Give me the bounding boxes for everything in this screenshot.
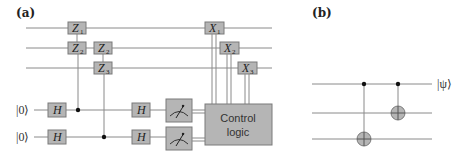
svg-text:Z: Z — [98, 61, 105, 75]
x3-gate: X 3 — [238, 61, 257, 76]
svg-text:2: 2 — [80, 48, 84, 56]
svg-text:Z: Z — [72, 41, 79, 55]
svg-text:2: 2 — [232, 48, 236, 56]
h-gate-1: H — [48, 103, 66, 117]
svg-text:X: X — [208, 21, 217, 35]
h-gate-4: H — [132, 130, 150, 144]
cnot-target-icon — [357, 132, 371, 146]
h-gate-3: H — [132, 103, 150, 117]
panel-b-label: (b) — [312, 6, 332, 20]
svg-text:X: X — [241, 61, 250, 75]
svg-text:logic: logic — [227, 126, 250, 138]
circuit-diagram: (a) Z 1 Z 2 Z 2 Z 3 |0⟩ |0⟩ H H — [0, 0, 466, 158]
svg-text:3: 3 — [250, 68, 254, 76]
measurement-meter-icon — [166, 99, 192, 122]
control-dot-icon — [362, 82, 366, 86]
svg-text:3: 3 — [106, 68, 110, 76]
svg-text:1: 1 — [217, 28, 221, 36]
svg-text:H: H — [52, 130, 63, 144]
z3-gate: Z 3 — [94, 61, 112, 76]
control-logic-block: Control logic — [205, 104, 272, 145]
svg-text:X: X — [223, 41, 232, 55]
z2-gate-b: Z 2 — [94, 41, 112, 56]
svg-text:1: 1 — [80, 28, 84, 36]
svg-text:H: H — [52, 103, 63, 117]
svg-text:H: H — [136, 103, 147, 117]
control-dot-icon — [102, 135, 106, 139]
x1-gate: X 1 — [205, 21, 224, 36]
z1-gate: Z 1 — [68, 21, 86, 36]
output-state-label: |ψ⟩ — [437, 77, 452, 91]
measurement-meter-icon — [166, 127, 192, 150]
svg-text:Control: Control — [220, 112, 255, 124]
cnot-target-icon — [391, 106, 405, 120]
ancilla-input-2: |0⟩ — [16, 130, 29, 144]
x2-gate: X 2 — [220, 41, 239, 56]
ancilla-input-1: |0⟩ — [16, 103, 29, 117]
h-gate-2: H — [48, 130, 66, 144]
z2-gate-a: Z 2 — [68, 41, 86, 56]
svg-text:2: 2 — [106, 48, 110, 56]
control-dot-icon — [76, 108, 80, 112]
control-dot-icon — [396, 82, 400, 86]
panel-a-label: (a) — [16, 6, 35, 20]
svg-text:Z: Z — [72, 21, 79, 35]
svg-text:Z: Z — [98, 41, 105, 55]
svg-text:H: H — [136, 130, 147, 144]
